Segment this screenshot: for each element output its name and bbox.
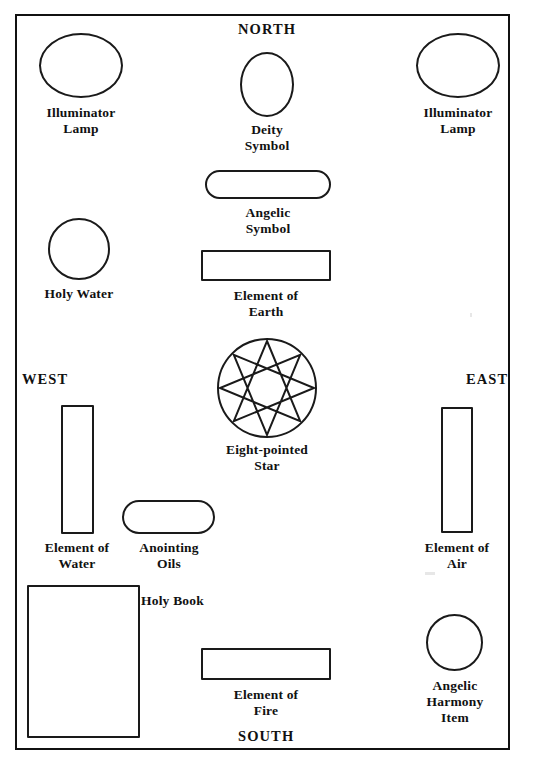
compass-north: NORTH <box>238 21 296 38</box>
altar-diagram-canvas: NORTH WEST EAST SOUTH Illuminator Lamp D… <box>0 0 534 763</box>
illuminator-lamp-right-label: Illuminator Lamp <box>398 105 518 137</box>
element-of-fire-shape[interactable] <box>201 648 331 680</box>
illuminator-lamp-left-shape[interactable] <box>39 33 123 98</box>
element-of-air-shape[interactable] <box>441 407 473 533</box>
element-of-earth-label: Element of Earth <box>211 288 321 320</box>
compass-west: WEST <box>22 371 68 388</box>
eight-pointed-star-label: Eight-pointed Star <box>202 442 332 474</box>
compass-south: SOUTH <box>238 728 294 745</box>
eight-pointed-star-svg <box>216 337 318 439</box>
eight-pointed-star-shape[interactable] <box>216 337 318 439</box>
angelic-harmony-item-shape[interactable] <box>426 614 483 671</box>
angelic-symbol-label: Angelic Symbol <box>213 205 323 237</box>
angelic-symbol-shape[interactable] <box>205 170 331 199</box>
angelic-harmony-item-label: Angelic Harmony Item <box>400 678 510 726</box>
anointing-oils-shape[interactable] <box>122 500 215 534</box>
element-of-fire-label: Element of Fire <box>211 687 321 719</box>
element-of-earth-shape[interactable] <box>201 250 331 281</box>
holy-water-label: Holy Water <box>24 286 134 302</box>
element-of-water-shape[interactable] <box>61 405 94 534</box>
illuminator-lamp-right-shape[interactable] <box>416 33 500 98</box>
deity-symbol-label: Deity Symbol <box>212 122 322 154</box>
holy-book-label: Holy Book <box>141 593 251 609</box>
element-of-air-label: Element of Air <box>402 540 512 572</box>
anointing-oils-label: Anointing Oils <box>114 540 224 572</box>
holy-book-shape[interactable] <box>27 585 140 738</box>
holy-water-shape[interactable] <box>48 218 110 280</box>
compass-east: EAST <box>466 371 508 388</box>
illuminator-lamp-left-label: Illuminator Lamp <box>21 105 141 137</box>
deity-symbol-shape[interactable] <box>240 52 294 117</box>
